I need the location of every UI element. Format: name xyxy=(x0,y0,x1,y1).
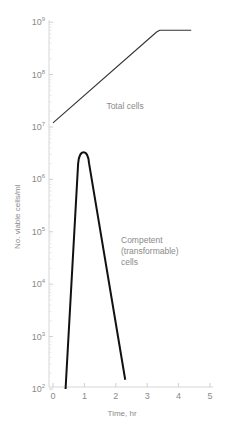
y-axis-title: No. viable cells/ml xyxy=(13,184,22,249)
competent-cells-label: (transformable) xyxy=(121,246,179,256)
competent-cells-label: Competent xyxy=(121,235,163,245)
y-tick-label: 105 xyxy=(32,226,46,237)
y-tick-label: 109 xyxy=(32,16,46,27)
y-tick-label: 108 xyxy=(32,69,46,80)
x-tick-label: 2 xyxy=(113,391,118,401)
y-tick-label: 107 xyxy=(32,121,46,132)
competent-cells-line xyxy=(66,152,126,389)
series-group xyxy=(53,30,191,389)
total-cells-label: Total cells xyxy=(106,101,143,111)
x-tick-label: 0 xyxy=(50,391,55,401)
plot-area: 102103104105106107108109012345Time, hrNo… xyxy=(0,0,229,432)
y-tick-label: 103 xyxy=(32,331,46,342)
x-tick-label: 5 xyxy=(207,391,212,401)
x-tick-label: 1 xyxy=(82,391,87,401)
chart-container: 102103104105106107108109012345Time, hrNo… xyxy=(0,0,229,432)
y-tick-label: 104 xyxy=(32,278,46,289)
x-tick-label: 4 xyxy=(176,391,181,401)
y-tick-label: 106 xyxy=(32,173,46,184)
labels-group: 102103104105106107108109012345Time, hrNo… xyxy=(13,16,213,418)
competent-cells-label: cells xyxy=(121,257,138,267)
x-tick-label: 3 xyxy=(145,391,150,401)
y-tick-label: 102 xyxy=(32,383,46,394)
x-axis-title: Time, hr xyxy=(108,409,137,418)
axes xyxy=(49,20,213,389)
